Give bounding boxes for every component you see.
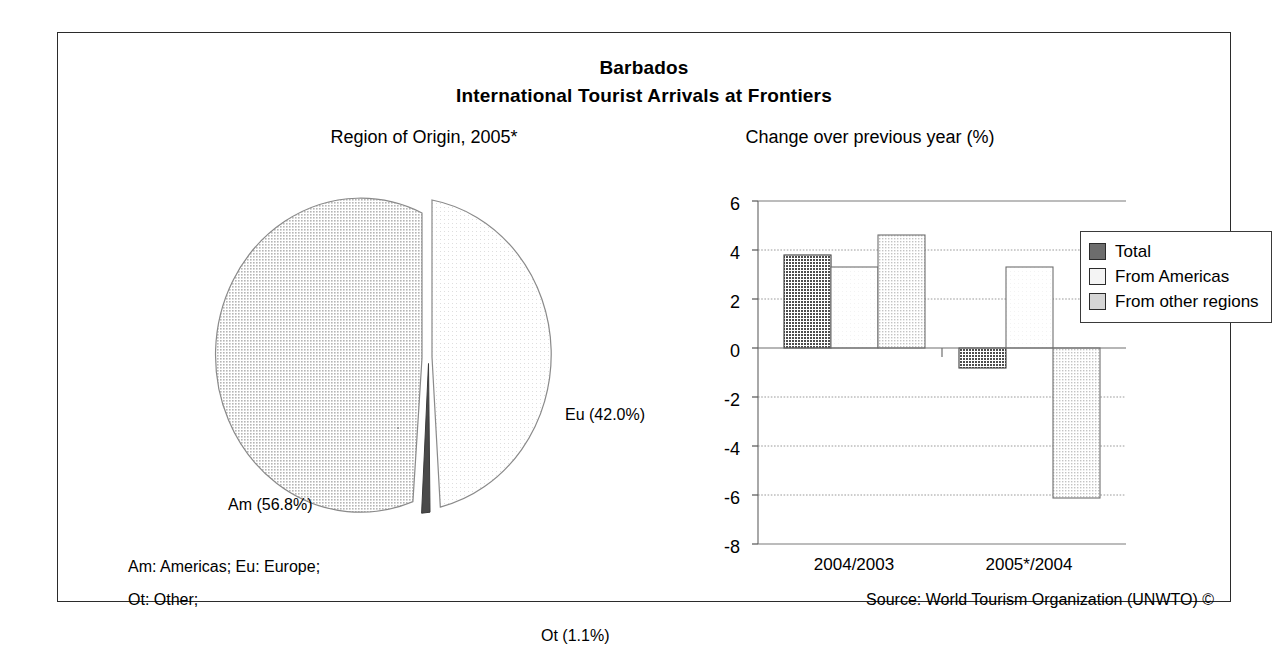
y-axis-tick: 6 bbox=[706, 195, 740, 213]
bar-total-2004 bbox=[784, 255, 831, 348]
bar-chart-svg bbox=[750, 163, 1230, 563]
y-axis-tick: -2 bbox=[706, 391, 740, 409]
pie-label-americas: Am (56.8%) bbox=[228, 496, 312, 514]
chart-frame: Barbados International Tourist Arrivals … bbox=[57, 32, 1231, 602]
x-axis-tick: 2004/2003 bbox=[774, 555, 934, 575]
footnote-abbreviations-line2: Ot: Other; bbox=[128, 591, 198, 609]
legend-label-from-americas: From Americas bbox=[1115, 267, 1229, 287]
legend-swatch-other-regions-icon bbox=[1089, 293, 1106, 310]
y-axis-tick: -4 bbox=[706, 440, 740, 458]
pie-label-europe: Eu (42.0%) bbox=[565, 406, 645, 424]
footnote-abbreviations-line1: Am: Americas; Eu: Europe; bbox=[128, 558, 320, 576]
page-title: Barbados bbox=[58, 57, 1230, 79]
legend-label-from-other-regions: From other regions bbox=[1115, 292, 1259, 312]
y-axis-tick: 2 bbox=[706, 293, 740, 311]
bar-other-2004 bbox=[878, 235, 925, 348]
legend-item-from-americas[interactable]: From Americas bbox=[1089, 264, 1259, 289]
bar-total-2005 bbox=[959, 348, 1006, 368]
legend-swatch-americas-icon bbox=[1089, 268, 1106, 285]
pie-slice-other bbox=[422, 364, 430, 514]
bar-chart: 6 4 2 0 -2 -4 -6 -8 bbox=[670, 163, 1230, 563]
source-credit: Source: World Tourism Organization (UNWT… bbox=[866, 591, 1214, 609]
bar-americas-2005 bbox=[1006, 267, 1053, 348]
legend-label-total: Total bbox=[1115, 242, 1151, 262]
pie-slice-europe bbox=[432, 200, 551, 507]
bar-other-2005 bbox=[1053, 348, 1100, 498]
y-axis-tick: 0 bbox=[706, 342, 740, 360]
legend-swatch-total-icon bbox=[1089, 243, 1106, 260]
pie-center-speck bbox=[397, 427, 399, 429]
y-axis-tick: 4 bbox=[706, 244, 740, 262]
pie-slice-americas bbox=[216, 198, 422, 512]
x-axis-tick: 2005*/2004 bbox=[949, 555, 1109, 575]
pie-chart-svg bbox=[208, 163, 628, 543]
bar-chart-title: Change over previous year (%) bbox=[670, 127, 1070, 148]
legend-item-from-other-regions[interactable]: From other regions bbox=[1089, 289, 1259, 314]
page-subtitle: International Tourist Arrivals at Fronti… bbox=[58, 85, 1230, 107]
y-axis-tick: -6 bbox=[706, 489, 740, 507]
legend-item-total[interactable]: Total bbox=[1089, 239, 1259, 264]
y-axis-tick: -8 bbox=[706, 538, 740, 556]
pie-chart: Eu (42.0%) Am (56.8%) Ot (1.1%) bbox=[208, 163, 628, 543]
bar-americas-2004 bbox=[831, 267, 878, 348]
pie-chart-title: Region of Origin, 2005* bbox=[234, 127, 614, 148]
pie-label-other: Ot (1.1%) bbox=[541, 627, 609, 645]
chart-legend: Total From Americas From other regions bbox=[1080, 231, 1272, 323]
